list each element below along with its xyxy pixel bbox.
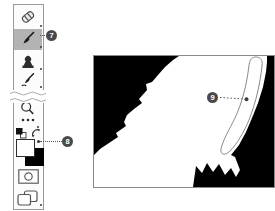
screen-mode-button[interactable] — [17, 190, 39, 207]
callout-8-leader — [40, 141, 62, 142]
callout-9-anchor-dot — [245, 97, 249, 101]
flyout-dot — [40, 86, 42, 88]
foreground-color-swatch[interactable] — [16, 139, 35, 157]
default-colors-button[interactable] — [16, 128, 27, 139]
quick-mask-button[interactable] — [18, 169, 39, 184]
quick-mask-icon — [18, 169, 39, 184]
edit-toolbar-button[interactable] — [20, 115, 36, 125]
spot-healing-brush-tool[interactable] — [19, 8, 37, 26]
callout-9: 9 — [207, 92, 218, 103]
history-brush-icon — [19, 72, 37, 90]
figure: 7 8 9 — [0, 0, 275, 211]
flyout-dot — [40, 68, 42, 70]
brush-tool[interactable] — [19, 30, 37, 48]
swap-colors-icon — [31, 128, 42, 139]
mask-artwork — [94, 56, 274, 187]
clone-stamp-icon — [19, 53, 37, 71]
callout-7: 7 — [46, 30, 57, 41]
ellipsis-icon — [20, 115, 36, 125]
brush-icon — [19, 30, 37, 48]
image-canvas[interactable] — [93, 55, 275, 188]
flyout-dot — [40, 204, 42, 206]
screen-mode-icon — [17, 190, 39, 207]
callout-8: 8 — [62, 136, 73, 147]
panel-break-wave — [10, 89, 47, 102]
flyout-dot — [40, 25, 42, 27]
flyout-dot — [40, 46, 42, 48]
swap-colors-button[interactable] — [31, 128, 42, 139]
default-colors-icon — [16, 128, 27, 139]
clone-stamp-tool[interactable] — [19, 53, 37, 71]
spot-healing-brush-icon — [19, 8, 37, 26]
history-brush-tool[interactable] — [19, 72, 37, 90]
